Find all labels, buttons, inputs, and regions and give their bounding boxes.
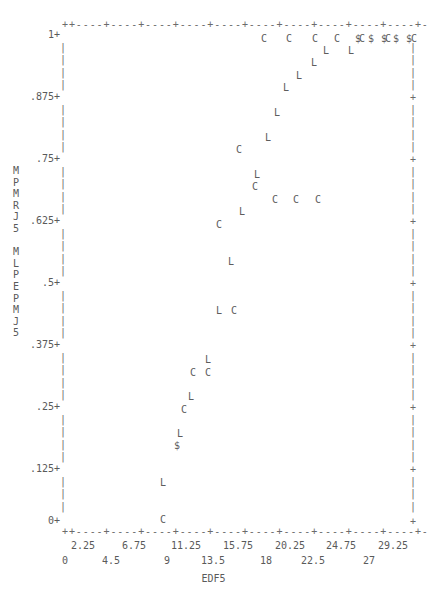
right-rule-seg-1: | | | |: [408, 42, 418, 92]
y-tick-label-0: 0+: [14, 516, 60, 526]
left-rule-seg-5: | | | |: [58, 290, 68, 340]
data-point-L: L: [188, 392, 194, 402]
right-tick-075: +: [408, 154, 418, 166]
right-tick-0375: +: [408, 340, 418, 352]
data-point-L: L: [323, 46, 329, 56]
data-point-C: C: [216, 220, 222, 230]
right-rule-seg-5: | | | |: [408, 290, 418, 340]
data-point-overlap: $: [381, 34, 387, 44]
data-point-L: L: [348, 46, 354, 56]
right-rule-seg-8: | | |: [408, 476, 418, 513]
x-tick-label-45: 4.5: [94, 556, 128, 566]
x-tick-label-1125: 11.25: [164, 541, 208, 551]
data-point-C: C: [181, 405, 187, 415]
y-tick-label-0875: .875+: [14, 92, 60, 102]
data-point-C: C: [160, 515, 166, 525]
right-tick-025: +: [408, 402, 418, 414]
data-point-C: C: [231, 306, 237, 316]
data-point-C: C: [286, 34, 292, 44]
data-point-L: L: [160, 478, 166, 488]
left-rule-seg-1: | | | |: [58, 42, 68, 92]
data-point-C: C: [334, 34, 340, 44]
left-rule-seg-7: | | | |: [58, 414, 68, 464]
x-tick-label-225: 2.25: [63, 541, 103, 551]
data-point-L: L: [296, 71, 302, 81]
x-tick-label-9: 9: [152, 556, 182, 566]
data-point-overlap: $: [406, 34, 412, 44]
data-point-L: L: [205, 355, 211, 365]
x-tick-label-0: 0: [50, 556, 80, 566]
x-tick-label-1575: 15.75: [216, 541, 260, 551]
right-tick-0625: +: [408, 216, 418, 228]
left-rule-seg-8: | | |: [58, 476, 68, 513]
data-point-L: L: [311, 58, 317, 68]
data-point-C: C: [236, 145, 242, 155]
right-rule-seg-6: | | | |: [408, 352, 418, 402]
data-point-L: L: [177, 429, 183, 439]
character-plot-canvas: ++----+----+----+----+----+----+----+---…: [0, 0, 427, 599]
data-point-L: L: [228, 257, 234, 267]
x-tick-label-2025: 20.25: [268, 541, 312, 551]
x-tick-label-27: 27: [354, 556, 384, 566]
right-rule-seg-3: | | | |: [408, 166, 418, 216]
data-point-overlap: $: [355, 34, 361, 44]
data-point-C: C: [190, 368, 196, 378]
left-rule-seg-3: | | | |: [58, 166, 68, 216]
data-point-C: C: [312, 34, 318, 44]
y-tick-label-025: .25+: [14, 402, 60, 412]
y-tick-label-0125: .125+: [14, 464, 60, 474]
data-point-overlap: $: [393, 34, 399, 44]
x-tick-label-225: 22.5: [294, 556, 332, 566]
data-point-C: C: [261, 34, 267, 44]
right-rule-seg-7: | | | |: [408, 414, 418, 464]
y-axis-title: M P M R J 5 M L P E P M J 5: [10, 165, 22, 339]
data-point-C: C: [205, 368, 211, 378]
data-point-overlap: $: [174, 441, 180, 451]
data-point-L: L: [254, 170, 260, 180]
y-tick-label-1: 1+: [14, 30, 60, 40]
top-axis-rule: ++----+----+----+----+----+----+----+---…: [62, 20, 427, 30]
data-point-C: C: [272, 195, 278, 205]
x-tick-label-2475: 24.75: [319, 541, 363, 551]
data-point-overlap: $: [368, 34, 374, 44]
y-tick-label-0375: .375+: [14, 340, 60, 350]
bottom-axis-rule: ++----+----+----+----+----+----+----+---…: [62, 527, 427, 537]
data-point-C: C: [293, 195, 299, 205]
right-rule-seg-2: | | | |: [408, 104, 418, 154]
right-tick-0875: +: [408, 92, 418, 104]
data-point-C: C: [315, 195, 321, 205]
right-tick-0: +: [408, 516, 418, 528]
data-point-L: L: [216, 306, 222, 316]
right-tick-0125: +: [408, 464, 418, 476]
x-tick-label-675: 6.75: [114, 541, 154, 551]
y-tick-label-075: .75+: [14, 154, 60, 164]
x-axis-title: EDF5: [0, 574, 427, 584]
data-point-L: L: [239, 207, 245, 217]
x-tick-label-2925: 29.25: [371, 541, 415, 551]
x-tick-label-135: 13.5: [194, 556, 232, 566]
left-rule-seg-6: | | | |: [58, 352, 68, 402]
x-tick-label-18: 18: [251, 556, 281, 566]
data-point-C: C: [252, 182, 258, 192]
data-point-L: L: [265, 133, 271, 143]
left-rule-seg-2: | | | |: [58, 104, 68, 154]
data-point-L: L: [274, 108, 280, 118]
right-tick-05: +: [408, 278, 418, 290]
right-rule-seg-4: | | | |: [408, 228, 418, 278]
left-rule-seg-4: | | | |: [58, 228, 68, 278]
data-point-L: L: [283, 83, 289, 93]
